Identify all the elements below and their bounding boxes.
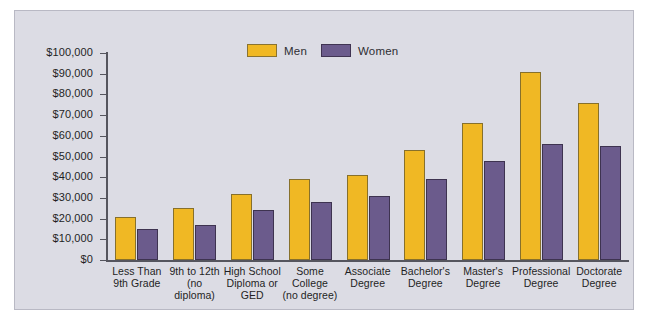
y-axis-tick-label: $50,000 [53, 150, 93, 162]
category-label: Associate Degree [339, 265, 397, 301]
bar-group [281, 53, 339, 260]
bar-group [455, 53, 513, 260]
bar-men[interactable] [578, 103, 599, 260]
bar-men[interactable] [173, 208, 194, 260]
bar-men[interactable] [462, 123, 483, 260]
category-label: Master's Degree [454, 265, 512, 301]
bar-women[interactable] [426, 179, 447, 260]
bar-women[interactable] [137, 229, 158, 260]
bar-group [512, 53, 570, 260]
y-axis-tick-label: $80,000 [53, 87, 93, 99]
bar-men[interactable] [520, 72, 541, 260]
bar-men[interactable] [115, 217, 136, 260]
category-label: 9th to 12th (no diploma) [166, 265, 224, 301]
bar-men[interactable] [404, 150, 425, 260]
y-axis-tick: $30,000 [100, 198, 106, 199]
bar-group [224, 53, 282, 260]
bar-group [397, 53, 455, 260]
bar-women[interactable] [369, 196, 390, 260]
y-axis-tick: $60,000 [100, 136, 106, 137]
y-axis-tick: $100,000 [100, 53, 106, 54]
category-label: Doctorate Degree [570, 265, 628, 301]
bar-group [108, 53, 166, 260]
bar-women[interactable] [253, 210, 274, 260]
y-axis-tick: $70,000 [100, 115, 106, 116]
y-axis-tick-label: $40,000 [53, 170, 93, 182]
bar-group [166, 53, 224, 260]
x-axis-line [106, 260, 629, 262]
y-axis-tick-label: $70,000 [53, 108, 93, 120]
y-axis-tick: $90,000 [100, 74, 106, 75]
y-axis-tick: $0 [100, 260, 106, 261]
y-axis-tick-label: $0 [81, 253, 93, 265]
y-axis-tick-label: $60,000 [53, 129, 93, 141]
category-label: Some College (no degree) [281, 265, 339, 301]
y-axis-tick-label: $100,000 [46, 46, 93, 58]
bar-women[interactable] [600, 146, 621, 260]
bar-men[interactable] [289, 179, 310, 260]
category-label: Less Than 9th Grade [108, 265, 166, 301]
y-axis-tick: $80,000 [100, 94, 106, 95]
y-axis-tick-label: $90,000 [53, 67, 93, 79]
bar-women[interactable] [484, 161, 505, 260]
bar-women[interactable] [195, 225, 216, 260]
bar-groups [108, 53, 628, 260]
bar-men[interactable] [347, 175, 368, 260]
chart-frame: Men Women $100,000$90,000$80,000$70,000$… [14, 10, 634, 310]
y-axis-tick-label: $30,000 [53, 191, 93, 203]
y-axis-tick: $40,000 [100, 177, 106, 178]
y-axis-tick: $50,000 [100, 157, 106, 158]
bar-group [339, 53, 397, 260]
category-labels: Less Than 9th Grade9th to 12th (no diplo… [108, 265, 628, 301]
category-label: Professional Degree [512, 265, 570, 301]
y-axis-tick-label: $20,000 [53, 212, 93, 224]
y-axis-tick: $10,000 [100, 239, 106, 240]
bar-men[interactable] [231, 194, 252, 260]
category-label: Bachelor's Degree [397, 265, 455, 301]
bar-women[interactable] [542, 144, 563, 260]
bar-group [570, 53, 628, 260]
bar-women[interactable] [311, 202, 332, 260]
y-axis-tick: $20,000 [100, 219, 106, 220]
y-axis-tick-label: $10,000 [53, 232, 93, 244]
category-label: High School Diploma or GED [223, 265, 281, 301]
